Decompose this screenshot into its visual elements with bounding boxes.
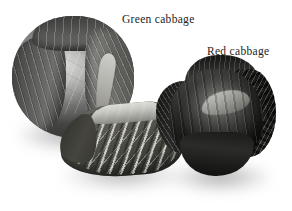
cabbage-photograph: Green cabbage Red cabbage	[0, 0, 292, 211]
green-cabbage-label: Green cabbage	[122, 14, 195, 26]
red-cabbage-bottom-lobe	[180, 132, 254, 176]
red-cabbage-highlight	[199, 86, 252, 119]
red-cabbage-head	[160, 60, 272, 176]
red-cabbage-label: Red cabbage	[207, 46, 269, 58]
cut-wedge-leaf-tip	[57, 113, 99, 164]
